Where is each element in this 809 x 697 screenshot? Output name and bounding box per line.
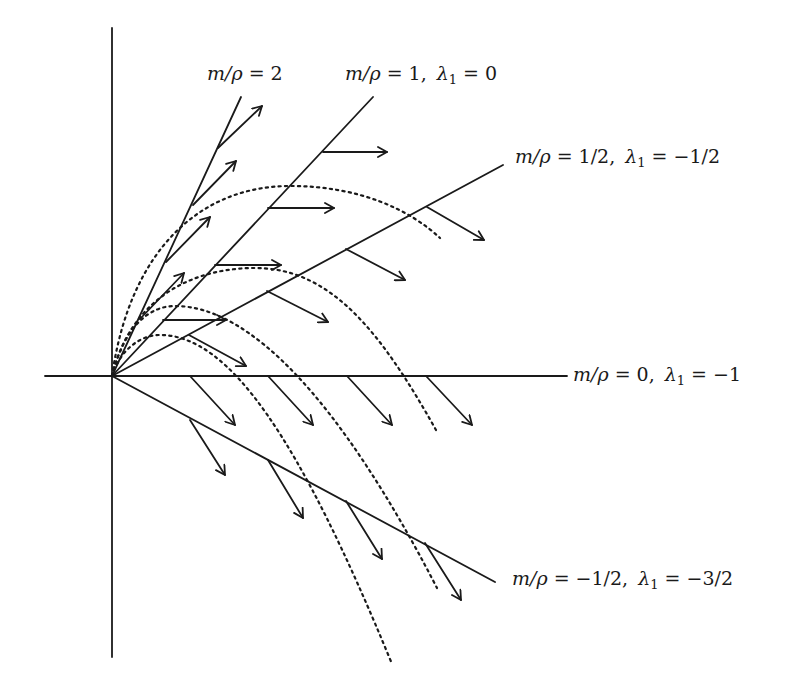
label-m-over-rho-1: m/ρ = 1,λ1 = 0 [345, 62, 497, 87]
label-m-over-rho-half: m/ρ = 1/2,λ1 = −1/2 [515, 145, 720, 170]
traj-3-curve [112, 306, 437, 588]
phase-diagram: m/ρ = 2 m/ρ = 1,λ1 = 0 m/ρ = 1/2,λ1 = −1… [0, 0, 809, 697]
ray-m0-arrow-1 [190, 376, 235, 425]
ray-m2-arrow-1 [218, 106, 262, 148]
ray-m-over-rho-1 [112, 97, 373, 376]
ray-m2-arrow-3 [166, 217, 210, 262]
label-m-over-rho-neg-half: m/ρ = −1/2,λ1 = −3/2 [512, 567, 733, 592]
ray-m-neg-half-arrow-4 [425, 543, 461, 600]
label-m-over-rho-2: m/ρ = 2 [207, 62, 283, 84]
ray-m-over-rho-2 [112, 97, 241, 376]
vector-field-arrows [140, 106, 484, 600]
ray-m-half-arrow-2 [346, 249, 405, 280]
ray-m-neg-half-arrow-3 [346, 501, 382, 559]
ray-m0-arrow-2 [268, 376, 313, 425]
label-m-over-rho-0: m/ρ = 0,λ1 = −1 [573, 363, 741, 388]
ray-m-over-rho-half [112, 165, 503, 376]
ray-m-half-arrow-4 [189, 335, 246, 366]
ray-m0-arrow-4 [426, 376, 472, 425]
ray-m2-arrow-2 [193, 161, 236, 205]
traj-4-curve [112, 335, 392, 664]
ray-m-half-arrow-3 [267, 291, 328, 322]
ray-m0-arrow-3 [347, 376, 392, 425]
ray-m-over-rho-neg-half [112, 376, 495, 582]
traj-1-curve [112, 186, 440, 376]
